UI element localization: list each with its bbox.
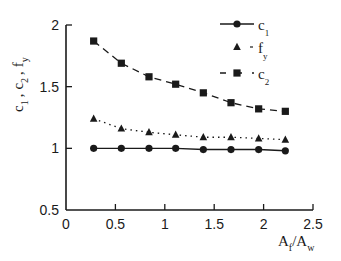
triangle-marker xyxy=(145,128,153,135)
circle-marker xyxy=(118,145,125,152)
square-marker xyxy=(233,69,240,76)
triangle-marker xyxy=(90,115,98,122)
square-marker xyxy=(90,37,97,44)
series-line-c2 xyxy=(94,41,286,111)
circle-marker xyxy=(172,145,179,152)
y-tick-label: 1.5 xyxy=(40,79,60,95)
triangle-marker xyxy=(172,131,180,138)
x-axis-label: Af/Aw xyxy=(278,233,315,253)
square-marker xyxy=(282,108,289,115)
legend-item-c2: c2 xyxy=(220,66,269,87)
circle-marker xyxy=(227,146,234,153)
legend-label: c2 xyxy=(258,66,269,87)
y-tick-label: 0.5 xyxy=(40,202,60,218)
triangle-marker xyxy=(200,133,208,140)
triangle-marker xyxy=(255,134,263,141)
square-marker xyxy=(227,99,234,106)
circle-marker xyxy=(200,146,207,153)
triangle-marker xyxy=(227,133,235,140)
circle-marker xyxy=(255,146,262,153)
x-tick-label: 0 xyxy=(62,216,70,232)
axes: 00.511.522.50.511.52 xyxy=(40,17,323,232)
legend: c1fyc2 xyxy=(220,17,269,87)
x-tick-label: 1.5 xyxy=(204,216,224,232)
triangle-marker xyxy=(282,136,290,143)
y-axis-label: c1,c2,fy xyxy=(10,57,30,112)
circle-marker xyxy=(90,145,97,152)
x-tick-label: 0.5 xyxy=(106,216,126,232)
x-tick-label: 1 xyxy=(161,216,169,232)
legend-item-c1: c1 xyxy=(220,17,269,38)
y-tick-label: 1 xyxy=(51,140,59,156)
circle-marker xyxy=(233,20,240,27)
square-marker xyxy=(255,105,262,112)
circle-marker xyxy=(145,145,152,152)
legend-label: fy xyxy=(258,40,268,61)
square-marker xyxy=(172,81,179,88)
chart: 00.511.522.50.511.52 c1fyc2 Af/Aw c1,c2,… xyxy=(0,0,341,261)
triangle-marker xyxy=(233,43,241,50)
circle-marker xyxy=(282,147,289,154)
x-tick-label: 2.5 xyxy=(303,216,323,232)
legend-item-fy: fy xyxy=(233,40,268,61)
series-c1 xyxy=(90,145,289,155)
triangle-marker xyxy=(118,124,126,131)
x-tick-label: 2 xyxy=(260,216,268,232)
series-fy xyxy=(90,115,289,143)
legend-label: c1 xyxy=(258,17,269,38)
y-tick-label: 2 xyxy=(51,17,59,33)
square-marker xyxy=(200,89,207,96)
square-marker xyxy=(118,60,125,67)
square-marker xyxy=(145,73,152,80)
